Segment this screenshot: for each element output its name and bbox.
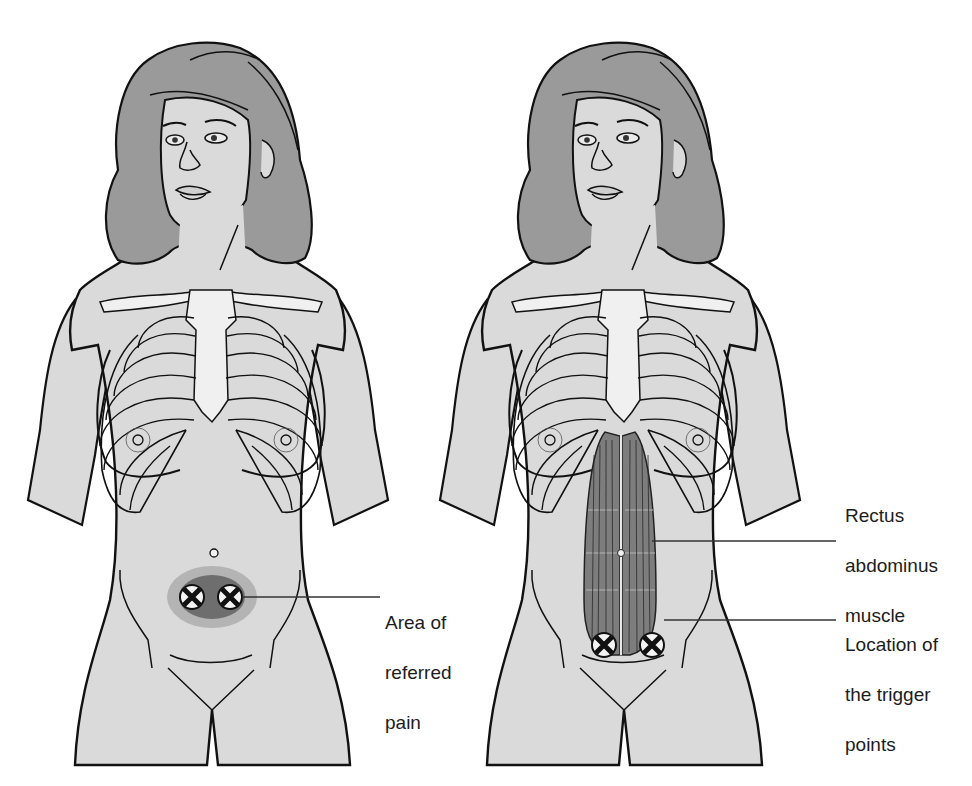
callout-line: referred [385,660,452,685]
anatomy-diagram: Area of referred pain Rectus abdominus m… [0,0,972,786]
callout-line: Rectus [845,503,938,528]
trigger-point-marker-icon [180,585,204,609]
callout-line: Location of [845,632,938,657]
rectus-abdominus-muscle [584,432,656,655]
trigger-point-marker-icon [640,633,664,657]
callout-line: Area of [385,610,452,635]
right-figure [440,43,836,765]
left-figure [28,43,388,765]
trigger-point-marker-icon [218,585,242,609]
callout-trigger-points: Location of the trigger points [845,607,938,782]
callout-line: the trigger [845,682,938,707]
callout-line: pain [385,710,452,735]
trigger-point-marker-icon [592,633,616,657]
callout-referred-pain: Area of referred pain [385,585,452,760]
illustration [0,0,972,786]
navel-icon [210,549,218,557]
callout-line: points [845,732,938,757]
callout-line: abdominus [845,553,938,578]
navel-icon [618,550,625,557]
